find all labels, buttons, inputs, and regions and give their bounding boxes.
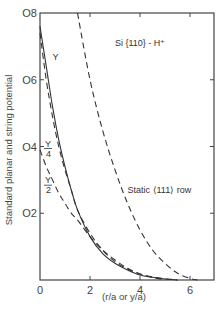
annotation-y-over-4: Y4 [44, 139, 52, 159]
curve-y2 [40, 150, 165, 280]
x-tick-label: 2 [87, 284, 93, 296]
y-tick-label: O6 [22, 74, 37, 86]
axis-ticks [40, 13, 214, 280]
svg-text:2: 2 [46, 185, 51, 195]
annotation: Y [53, 52, 59, 62]
annotation-y-over-2: Y2 [44, 175, 52, 195]
chart: 0246O2O4O6O8 Si {110} - H⁺Static ⟨111⟩ r… [0, 0, 221, 312]
svg-text:Y: Y [45, 175, 51, 185]
plot-frame [40, 13, 214, 280]
y-tick-label: O8 [22, 7, 37, 19]
x-tick-label: 0 [37, 284, 43, 296]
data-curves [40, 13, 198, 280]
x-tick-label: 6 [187, 284, 193, 296]
annotation: Si {110} - H⁺ [115, 38, 165, 48]
y-tick-label: O4 [22, 141, 37, 153]
svg-text:Y: Y [45, 139, 51, 149]
y-tick-label: O2 [22, 207, 37, 219]
curve-static [78, 13, 198, 280]
svg-text:4: 4 [46, 149, 51, 159]
x-axis-label: (r/a or y/a) [102, 291, 146, 302]
curve-y4 [40, 33, 178, 280]
annotation: Static ⟨111⟩ row [128, 185, 192, 195]
y-axis-label: Standard planar and string potential [3, 75, 14, 226]
